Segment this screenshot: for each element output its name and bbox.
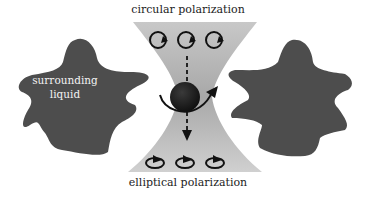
particle	[170, 82, 200, 112]
circular-polarization-label: circular polarization	[0, 3, 376, 16]
liquid-label-line1: surrounding	[20, 73, 110, 87]
liquid-label-line2: liquid	[20, 87, 110, 101]
elliptical-polarization-label: elliptical polarization	[0, 176, 376, 189]
surrounding-liquid-label: surrounding liquid	[20, 73, 110, 101]
liquid-blob-right	[229, 40, 352, 157]
